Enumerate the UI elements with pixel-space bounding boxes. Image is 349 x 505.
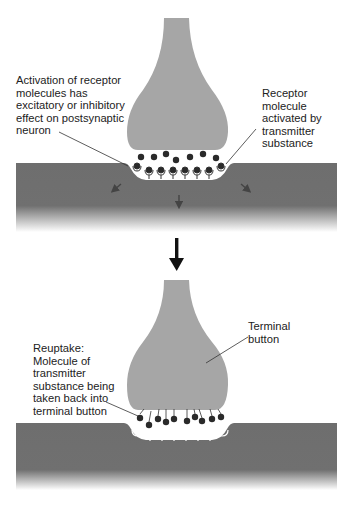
terminal-button	[127, 280, 228, 410]
transmitter-molecules	[138, 151, 219, 163]
label-terminal-button: Terminal button	[248, 320, 290, 345]
label-reuptake: Reuptake: Molecule of transmitter substa…	[33, 342, 114, 418]
label-activation-effect: Activation of receptor molecules has exc…	[16, 74, 125, 137]
down-arrow-icon	[169, 238, 184, 271]
bound-receptors	[133, 163, 225, 179]
label-receptor-molecule: Receptor molecule activated by transmitt…	[262, 87, 322, 150]
terminal-button	[127, 18, 228, 150]
reuptake-molecules	[137, 409, 224, 428]
empty-receptors	[132, 430, 228, 441]
postsynaptic-membrane	[16, 423, 337, 490]
